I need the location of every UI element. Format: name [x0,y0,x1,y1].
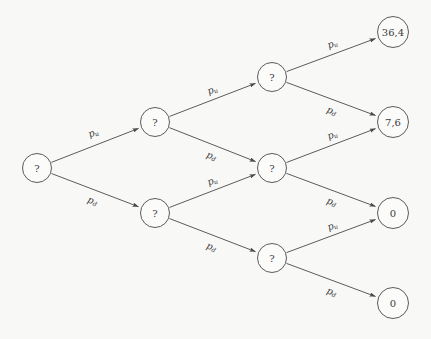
svg-text:pd: pd [205,239,218,253]
terminal-node: 36,4 [378,17,409,48]
edge-label-down: pd [325,103,338,117]
svg-text:pu: pu [325,127,338,141]
unknown-value-node: ? [258,63,287,92]
edge-label-up: pu [205,173,218,187]
lattice-canvas: pupdpupdpupdpupdpupdpupd ??????36,47,600 [0,0,431,339]
edge-label-down: pd [325,284,338,298]
svg-text:pd: pd [325,194,338,208]
svg-text:pu: pu [205,82,218,96]
node-label: ? [152,117,157,128]
edges-layer [51,39,375,297]
edge-label-down: pd [325,194,338,208]
edge-label-down: pd [205,148,218,162]
node-label: ? [269,72,274,83]
edge-label-down: pd [205,239,218,253]
edge-label-down: pd [86,193,99,207]
node-label: ? [152,208,157,219]
unknown-value-node: ? [141,108,170,137]
unknown-value-node: ? [141,199,170,228]
edge-labels-layer: pupdpupdpupdpupdpupdpupd [86,36,338,298]
edge-label-up: pu [86,125,99,139]
unknown-value-node: ? [258,244,287,273]
unknown-value-node: ? [258,154,287,183]
edge-label-up: pu [325,36,338,50]
binomial-lattice-diagram: pupdpupdpupdpupdpupdpupd ??????36,47,600 [0,0,431,339]
terminal-node: 0 [378,288,409,319]
node-label: 36,4 [382,27,404,38]
svg-text:pd: pd [86,193,99,207]
edge-label-up: pu [325,127,338,141]
node-label: 0 [390,298,396,309]
edge-label-up: pu [205,82,218,96]
svg-text:pu: pu [86,125,99,139]
node-label: ? [34,163,39,174]
node-label: ? [269,253,274,264]
unknown-value-node: ? [23,154,52,183]
terminal-node: 7,6 [378,107,409,138]
edge-label-up: pu [325,218,338,232]
nodes-layer: ??????36,47,600 [23,17,409,319]
node-label: 7,6 [385,117,401,128]
svg-text:pd: pd [325,284,338,298]
svg-text:pu: pu [325,36,338,50]
terminal-node: 0 [378,198,409,229]
svg-text:pu: pu [325,218,338,232]
svg-text:pu: pu [205,173,218,187]
node-label: ? [269,163,274,174]
node-label: 0 [390,208,396,219]
svg-text:pd: pd [205,148,218,162]
svg-text:pd: pd [325,103,338,117]
